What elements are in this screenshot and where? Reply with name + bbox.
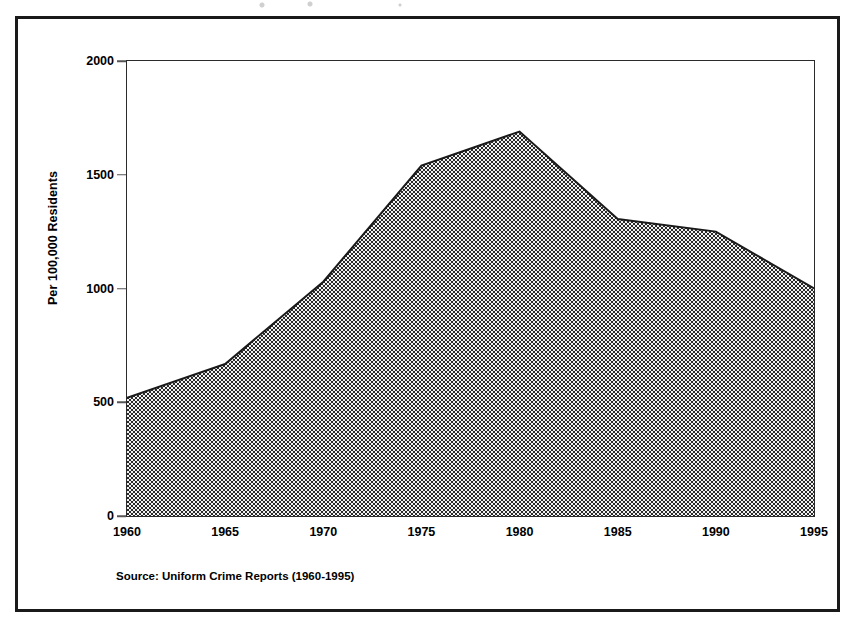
y-axis-tick-label: 0 bbox=[24, 509, 127, 523]
x-axis-tick-label: 1965 bbox=[211, 525, 239, 539]
figure-frame: Per 100,000 Residents 0500100015002000 1… bbox=[15, 16, 840, 612]
y-axis-tick-label: 500 bbox=[24, 395, 127, 409]
y-axis-tick-text: 2000 bbox=[86, 54, 114, 68]
y-axis-tick-mark bbox=[117, 288, 126, 290]
y-axis-tick-text: 500 bbox=[93, 395, 114, 409]
y-axis-tick-mark bbox=[117, 60, 126, 62]
cropped-title-ink-remnant bbox=[250, 1, 450, 8]
y-axis-tick-label: 2000 bbox=[24, 54, 127, 68]
x-axis-tick-label: 1980 bbox=[506, 525, 534, 539]
y-axis-tick-label: 1000 bbox=[24, 282, 127, 296]
y-axis-tick-mark bbox=[117, 515, 126, 517]
plot-area: 0500100015002000 19601965197019751980198… bbox=[126, 60, 815, 517]
x-axis-tick-label: 1990 bbox=[702, 525, 730, 539]
y-axis-tick-mark bbox=[117, 174, 126, 176]
x-axis-tick-label: 1970 bbox=[309, 525, 337, 539]
y-axis-tick-mark bbox=[117, 402, 126, 404]
x-axis-tick-label: 1975 bbox=[408, 525, 436, 539]
y-axis-tick-text: 0 bbox=[107, 509, 114, 523]
y-axis-tick-text: 1500 bbox=[86, 168, 114, 182]
x-axis-tick-label: 1960 bbox=[113, 525, 141, 539]
x-axis-tick-label: 1985 bbox=[604, 525, 632, 539]
area-series-fill bbox=[127, 132, 814, 516]
source-note: Source: Uniform Crime Reports (1960-1995… bbox=[116, 570, 354, 582]
x-axis-tick-label: 1995 bbox=[800, 525, 828, 539]
y-axis-tick-label: 1500 bbox=[24, 168, 127, 182]
y-axis-tick-text: 1000 bbox=[86, 282, 114, 296]
area-chart-svg bbox=[127, 61, 814, 516]
